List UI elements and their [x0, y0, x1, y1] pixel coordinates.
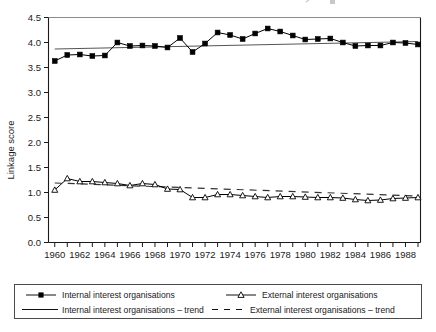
- marker-internal: [228, 33, 233, 38]
- y-tick-label: 2.0: [28, 137, 41, 148]
- marker-internal: [153, 44, 158, 49]
- marker-internal: [128, 44, 133, 49]
- marker-internal: [353, 44, 358, 49]
- x-tick-label: 1984: [345, 249, 366, 260]
- marker-internal: [77, 52, 82, 57]
- artifact-mark-2: [330, 0, 335, 4]
- marker-internal: [140, 43, 145, 48]
- y-tick-label: 4.5: [28, 12, 41, 23]
- x-tick-label: 1964: [94, 249, 115, 260]
- y-axis-title: Linkage score: [5, 120, 16, 179]
- y-tick-label: 3.5: [28, 62, 41, 73]
- marker-internal: [315, 37, 320, 42]
- x-tick-label: 1980: [295, 249, 316, 260]
- x-tick-label: 1962: [69, 249, 90, 260]
- marker-internal: [178, 36, 183, 41]
- legend-label: External interest organisations: [262, 290, 378, 300]
- marker-internal: [328, 36, 333, 41]
- x-tick-label: 1968: [144, 249, 165, 260]
- legend-label: Internal interest organisations – trend: [62, 305, 204, 315]
- marker-internal: [303, 37, 308, 42]
- y-tick-label: 0.5: [28, 212, 41, 223]
- marker-internal: [378, 43, 383, 48]
- legend-label: Internal interest organisations: [62, 290, 175, 300]
- x-tick-label: 1970: [169, 249, 190, 260]
- chart-background: [0, 0, 436, 332]
- marker-internal: [265, 26, 270, 31]
- y-tick-label: 3.0: [28, 87, 41, 98]
- x-tick-label: 1986: [370, 249, 391, 260]
- marker-internal: [391, 40, 396, 45]
- y-tick-label: 2.5: [28, 112, 41, 123]
- x-tick-label: 1960: [44, 249, 65, 260]
- marker-internal: [365, 43, 370, 48]
- marker-internal: [403, 41, 408, 46]
- legend-marker-filled-square-icon: [38, 292, 43, 297]
- marker-internal: [102, 53, 107, 58]
- x-tick-label: 1978: [270, 249, 291, 260]
- marker-internal: [215, 30, 220, 35]
- marker-internal: [52, 59, 57, 64]
- marker-internal: [115, 40, 120, 45]
- y-tick-label: 1.0: [28, 187, 41, 198]
- marker-internal: [90, 54, 95, 59]
- y-tick-label: 0.0: [28, 237, 41, 248]
- y-tick-label: 4.0: [28, 37, 41, 48]
- y-axis-title-text: Linkage score: [5, 120, 16, 179]
- x-tick-label: 1974: [220, 249, 241, 260]
- chart-legend: Internal interest organisationsExternal …: [15, 285, 422, 319]
- x-tick-label: 1982: [320, 249, 341, 260]
- x-tick-label: 1972: [194, 249, 215, 260]
- y-tick-label: 1.5: [28, 162, 41, 173]
- marker-internal: [416, 42, 421, 47]
- marker-internal: [65, 53, 70, 58]
- marker-internal: [165, 45, 170, 50]
- linkage-score-line-chart: 0.00.51.01.52.02.53.03.54.04.5 Linkage s…: [0, 0, 436, 332]
- marker-internal: [203, 41, 208, 46]
- marker-internal: [278, 29, 283, 34]
- chart-figure: 0.00.51.01.52.02.53.03.54.04.5 Linkage s…: [0, 0, 436, 332]
- x-tick-label: 1966: [119, 249, 140, 260]
- legend-label: External interest organisations – trend: [250, 305, 395, 315]
- marker-internal: [290, 33, 295, 38]
- x-tick-label: 1976: [245, 249, 266, 260]
- marker-internal: [240, 37, 245, 42]
- marker-internal: [190, 50, 195, 55]
- marker-internal: [253, 31, 258, 36]
- x-tick-label: 1988: [395, 249, 416, 260]
- marker-internal: [340, 40, 345, 45]
